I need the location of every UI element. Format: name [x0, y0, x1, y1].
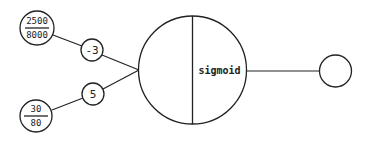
input-2-numerator: 30: [31, 104, 42, 114]
edge-input1-weight1: [53, 35, 82, 46]
weight-2-value: 5: [90, 88, 97, 101]
activation-label: sigmoid: [198, 65, 240, 76]
input-2-denominator: 80: [31, 118, 42, 128]
neuron-diagram: 2500 8000 30 80 -3 5 sigmoid: [0, 0, 368, 142]
edge-weight2-neuron: [103, 70, 139, 89]
output-node: [320, 55, 352, 87]
weight-1-value: -3: [85, 44, 98, 57]
weight-node-2: 5: [82, 83, 104, 105]
edge-input2-weight2: [52, 98, 83, 110]
neuron-node: sigmoid: [139, 16, 247, 124]
input-node-1: 2500 8000: [20, 11, 54, 45]
input-1-denominator: 8000: [26, 30, 48, 40]
edge-weight1-neuron: [102, 55, 139, 70]
input-node-2: 30 80: [20, 100, 52, 132]
weight-node-1: -3: [81, 39, 103, 61]
input-1-numerator: 2500: [26, 16, 48, 26]
